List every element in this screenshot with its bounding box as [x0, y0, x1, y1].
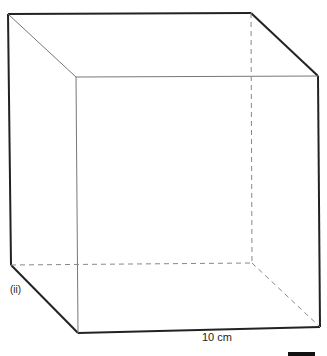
edge-front-left [76, 77, 78, 333]
edge-back-top [8, 13, 251, 14]
edge-front-top [76, 76, 318, 77]
hidden-edge-bottom-right-depth [252, 263, 320, 327]
edge-front-right [318, 76, 320, 327]
edge-top-right-depth [251, 13, 318, 76]
hidden-edge-back-bottom [11, 263, 252, 265]
corner-bar-mark [288, 352, 315, 356]
edge-bottom-left-depth [11, 265, 78, 333]
edge-front-bottom [78, 327, 320, 333]
part-label: (ii) [10, 284, 21, 295]
cube-outline [8, 13, 320, 333]
hidden-edge-back-right [251, 13, 252, 263]
dimension-label: 10 cm [202, 331, 232, 343]
edge-top-left-depth [8, 14, 76, 77]
cube-inner-edges [8, 14, 318, 333]
cube-diagram [0, 0, 327, 356]
edge-back-left [8, 14, 11, 265]
